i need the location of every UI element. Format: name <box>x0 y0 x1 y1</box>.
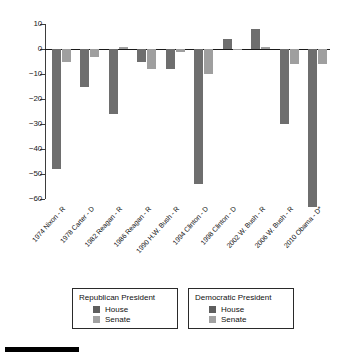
legend-entry-label: House <box>105 305 128 314</box>
legend-entry: Senate <box>195 315 287 324</box>
y-tick-label: −10 <box>29 70 42 78</box>
y-tick-label: −40 <box>29 145 42 153</box>
bar-house-3 <box>137 49 146 62</box>
legend-group-democratic: Democratic PresidentHouseSenate <box>188 288 294 329</box>
legend-group-title: Democratic President <box>195 292 287 303</box>
legend-entry: House <box>79 305 171 314</box>
bar-senate-5 <box>204 49 213 74</box>
bar-house-9 <box>308 49 317 207</box>
bar-senate-8 <box>290 49 299 64</box>
y-tick-label: −20 <box>29 95 42 103</box>
legend-entry-label: House <box>221 305 244 314</box>
bar-senate-3 <box>147 49 156 69</box>
y-tick-label: −50 <box>29 170 42 178</box>
bottom-rule <box>5 347 79 352</box>
legend-group-title: Republican President <box>79 292 171 303</box>
legend-swatch-senate-icon <box>209 316 216 323</box>
legend-entry-label: Senate <box>221 315 246 324</box>
y-axis-line <box>45 24 46 199</box>
bar-house-7 <box>251 29 260 49</box>
legend-entry: House <box>195 305 287 314</box>
bar-house-0 <box>52 49 61 169</box>
bar-house-1 <box>80 49 89 87</box>
chart-figure: 100−10−20−30−40−50−60 1974 Nixon - R1978… <box>0 0 352 363</box>
bar-house-2 <box>109 49 118 114</box>
legend-entry: Senate <box>79 315 171 324</box>
bar-house-8 <box>280 49 289 124</box>
bar-house-4 <box>166 49 175 69</box>
bar-senate-0 <box>62 49 71 62</box>
legend-group-republican: Republican PresidentHouseSenate <box>72 288 178 329</box>
y-tick-label: 0 <box>38 45 42 53</box>
bar-senate-9 <box>318 49 327 64</box>
legend-swatch-house-icon <box>209 306 216 313</box>
plot-area: 100−10−20−30−40−50−60 <box>45 24 330 199</box>
y-tick-label: −30 <box>29 120 42 128</box>
bar-senate-1 <box>90 49 99 57</box>
bar-senate-7 <box>261 47 270 50</box>
y-tick-label: 10 <box>34 20 43 28</box>
bar-senate-6 <box>233 49 242 50</box>
bar-senate-2 <box>119 47 128 50</box>
legend-swatch-senate-icon <box>93 316 100 323</box>
bar-senate-4 <box>176 49 185 52</box>
y-tick-label: −60 <box>29 195 42 203</box>
bar-house-5 <box>194 49 203 184</box>
legend-entry-label: Senate <box>105 315 130 324</box>
bar-house-6 <box>223 39 232 49</box>
chart-legend: Republican PresidentHouseSenateDemocrati… <box>72 288 294 329</box>
legend-swatch-house-icon <box>93 306 100 313</box>
